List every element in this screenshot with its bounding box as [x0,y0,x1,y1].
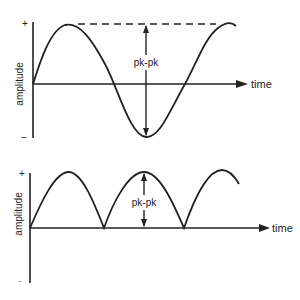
minus-label: - [19,276,22,285]
amplitude-label: amplitude [13,192,24,236]
rectified-wave-diagram: pk-pk time + - amplitude [13,168,293,285]
minus-label: − [21,132,27,143]
plus-label: + [22,18,28,29]
sine-curve [33,23,236,137]
pk-pk-label: pk-pk [132,197,157,208]
amplitude-label: amplitude [14,62,25,106]
time-arrow-icon [236,80,248,88]
pk-pk-label: pk-pk [134,57,159,68]
time-arrow-icon [259,224,270,232]
plus-label: + [19,168,25,179]
time-label: time [272,222,293,234]
time-label: time [251,78,272,90]
sine-wave-diagram: pk-pk time + − amplitude [14,18,272,143]
waveform-diagram: pk-pk time + − amplitude pk-pk time + - … [0,0,300,300]
